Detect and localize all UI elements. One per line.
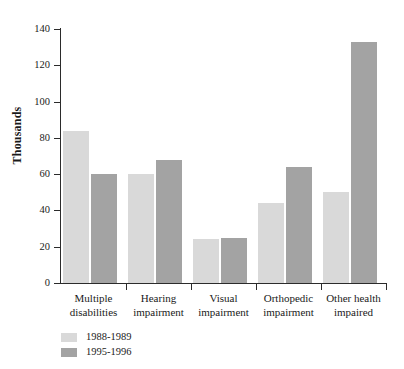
- y-tick-label: 80: [6, 133, 50, 144]
- bar: [351, 42, 377, 283]
- y-tick-mark: [54, 283, 61, 284]
- y-tick-label-wrap: 0: [0, 283, 50, 284]
- x-tick-mark: [386, 284, 387, 290]
- legend-label: 1988-1989: [86, 332, 132, 343]
- y-tick-mark: [54, 174, 61, 175]
- y-tick-mark: [54, 138, 61, 139]
- bar: [323, 192, 349, 283]
- x-tick-mark: [321, 284, 322, 290]
- y-tick-label: 0: [6, 278, 50, 289]
- legend-swatch: [61, 333, 77, 342]
- plot-area: [61, 29, 386, 283]
- bar-group: [61, 29, 386, 283]
- y-tick-mark: [54, 65, 61, 66]
- y-tick-label-wrap: 100: [0, 102, 50, 103]
- y-tick-label: 20: [6, 242, 50, 253]
- y-tick-label: 120: [6, 60, 50, 71]
- category-label-line: Other health: [315, 292, 392, 306]
- y-tick-label-wrap: 120: [0, 65, 50, 66]
- y-tick-label: 140: [6, 24, 50, 35]
- y-tick-mark: [54, 210, 61, 211]
- y-tick-label: 40: [6, 205, 50, 216]
- y-tick-label-wrap: 40: [0, 210, 50, 211]
- legend-item: 1988-1989: [61, 330, 132, 344]
- y-tick-label: 60: [6, 169, 50, 180]
- legend-item: 1995-1996: [61, 345, 132, 359]
- x-axis-line: [60, 283, 387, 284]
- y-tick-label-wrap: 140: [0, 29, 50, 30]
- y-tick-mark: [54, 247, 61, 248]
- y-tick-mark: [54, 29, 61, 30]
- y-tick-label-wrap: 80: [0, 138, 50, 139]
- bar-chart: Thousands 020406080100120140 Multipledis…: [0, 0, 404, 369]
- legend-swatch: [61, 348, 77, 357]
- y-tick-label-wrap: 60: [0, 174, 50, 175]
- x-tick-mark: [126, 284, 127, 290]
- x-tick-mark: [191, 284, 192, 290]
- x-tick-mark: [256, 284, 257, 290]
- y-tick-mark: [54, 102, 61, 103]
- category-label-line: impaired: [315, 306, 392, 320]
- category-label: Other healthimpaired: [315, 292, 392, 319]
- y-tick-label-wrap: 20: [0, 247, 50, 248]
- y-tick-label: 100: [6, 97, 50, 108]
- legend-label: 1995-1996: [86, 347, 132, 358]
- chart-legend: 1988-19891995-1996: [61, 330, 132, 360]
